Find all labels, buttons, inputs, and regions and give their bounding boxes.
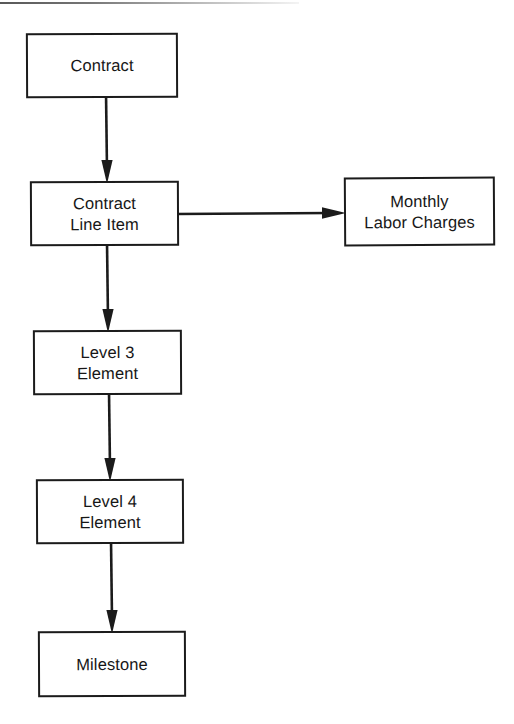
node-monthly-labor-charges[interactable]: Monthly Labor Charges bbox=[344, 177, 495, 247]
node-level-4-element[interactable]: Level 4 Element bbox=[36, 479, 184, 545]
node-milestone-label: Milestone bbox=[76, 653, 148, 674]
arrowhead-icon bbox=[322, 207, 346, 218]
node-contract-line-item-label: Contract Line Item bbox=[70, 193, 139, 235]
connector-level-4-element-to-milestone bbox=[94, 540, 134, 638]
node-milestone[interactable]: Milestone bbox=[38, 631, 186, 698]
connector-contract-to-contract-line-item bbox=[88, 92, 128, 188]
connector-level-3-element-to-level-4-element bbox=[92, 391, 132, 486]
diagram-canvas: Contract Contract Line Item Monthly Labo… bbox=[0, 0, 514, 724]
node-contract-line-item[interactable]: Contract Line Item bbox=[30, 181, 179, 247]
node-monthly-labor-charges-label: Monthly Labor Charges bbox=[364, 190, 475, 232]
node-level-3-element[interactable]: Level 3 Element bbox=[33, 330, 182, 396]
node-contract[interactable]: Contract bbox=[26, 33, 178, 99]
node-level-3-element-label: Level 3 Element bbox=[77, 342, 138, 384]
scan-artifact-rule bbox=[0, 2, 299, 4]
node-contract-label: Contract bbox=[70, 55, 133, 76]
connector-contract-line-item-to-level-3-element bbox=[90, 242, 130, 337]
connector-contract-line-item-to-monthly-labor-charges bbox=[176, 198, 352, 232]
node-level-4-element-label: Level 4 Element bbox=[79, 491, 140, 533]
